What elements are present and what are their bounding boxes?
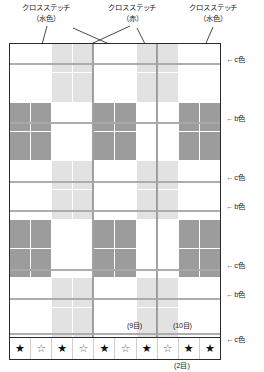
grid-cell	[137, 190, 158, 219]
grid-cell	[31, 220, 52, 249]
grid-cell	[94, 249, 115, 278]
star-hollow-icon: ☆	[31, 338, 52, 359]
guide-hline-c3	[10, 269, 220, 271]
grid-cell	[200, 73, 220, 102]
stitch-star-row: ★☆★☆★☆★☆★★	[9, 338, 221, 360]
grid-cell	[94, 73, 115, 102]
grid-cell	[10, 73, 31, 102]
annotation-top-mid-line2: （赤）	[108, 14, 156, 25]
grid-cell	[115, 249, 136, 278]
grid-cell	[52, 132, 73, 161]
grid-cell	[94, 220, 115, 249]
grid-cell	[179, 220, 200, 249]
annotation-top-right: クロスステッチ （水色）	[189, 3, 237, 24]
guide-hline-b2	[10, 210, 220, 212]
row-label-text: b色	[234, 290, 245, 299]
grid-row	[10, 132, 220, 161]
annotation-top-right-line1: クロスステッチ	[189, 3, 237, 12]
left-arrow-icon: ←	[226, 335, 233, 344]
grid-cell	[10, 278, 31, 307]
row-label-text: c色	[234, 335, 244, 344]
star-filled-icon: ★	[10, 338, 31, 359]
grid-cell	[158, 73, 179, 102]
grid-cell	[179, 190, 200, 219]
annotation-top-mid: クロスステッチ （赤）	[108, 3, 156, 24]
grid-cell	[158, 190, 179, 219]
grid-cell	[52, 73, 73, 102]
left-arrow-icon: ←	[226, 114, 233, 123]
row-label-c色: ←c色	[226, 333, 245, 344]
star-filled-icon: ★	[137, 338, 158, 359]
star-hollow-icon: ☆	[158, 338, 179, 359]
grid-cell	[94, 190, 115, 219]
grid-cell	[115, 44, 136, 73]
grid-cell	[200, 278, 220, 307]
grid-cell	[179, 44, 200, 73]
grid-cell	[10, 220, 31, 249]
grid-cell	[31, 103, 52, 132]
annotation-top-left-line2: （水色）	[22, 14, 70, 25]
grid-row	[10, 73, 220, 102]
guide-vline-1	[92, 44, 94, 337]
count-col10-label: (10目)	[173, 320, 192, 330]
grid-cell	[52, 249, 73, 278]
grid-cell	[200, 161, 220, 190]
grid-cell	[137, 132, 158, 161]
grid-cell	[200, 44, 220, 73]
row-label-c色: ←c色	[226, 259, 245, 270]
guide-vline-2	[156, 44, 158, 337]
grid-cell	[94, 161, 115, 190]
star-filled-icon: ★	[200, 338, 220, 359]
row-label-text: c色	[234, 173, 244, 182]
left-arrow-icon: ←	[226, 290, 233, 299]
grid-cell	[158, 220, 179, 249]
grid-cell	[10, 44, 31, 73]
grid-cell	[52, 161, 73, 190]
annotation-top-left: クロスステッチ （水色）	[22, 3, 70, 24]
grid-cell	[31, 44, 52, 73]
grid-cell	[200, 132, 220, 161]
annotation-top-right-line2: （水色）	[189, 14, 237, 25]
grid-cell	[115, 220, 136, 249]
pattern-diagram: クロスステッチ （水色） クロスステッチ （赤） クロスステッチ （水色）	[0, 0, 264, 372]
grid-cell	[137, 161, 158, 190]
grid-cell	[137, 73, 158, 102]
guide-hline-c2	[10, 181, 220, 183]
grid-cell	[94, 103, 115, 132]
grid-cell	[158, 44, 179, 73]
grid-cell	[200, 220, 220, 249]
left-arrow-icon: ←	[226, 173, 233, 182]
grid-cell	[179, 132, 200, 161]
grid-cell	[179, 103, 200, 132]
grid-cell	[52, 44, 73, 73]
grid-cell	[179, 73, 200, 102]
grid-cell	[10, 103, 31, 132]
star-filled-icon: ★	[179, 338, 200, 359]
grid-cell	[31, 161, 52, 190]
grid-cell	[200, 249, 220, 278]
row-label-b色: ←b色	[226, 112, 245, 123]
star-hollow-icon: ☆	[115, 338, 136, 359]
grid-cell	[137, 44, 158, 73]
grid-cell	[137, 278, 158, 307]
grid-cell	[31, 132, 52, 161]
grid-cell	[94, 44, 115, 73]
star-filled-icon: ★	[52, 338, 73, 359]
grid-cell	[158, 103, 179, 132]
grid	[10, 44, 220, 337]
row-label-text: b色	[234, 202, 245, 211]
grid-cell	[52, 190, 73, 219]
grid-row	[10, 103, 220, 132]
grid-cell	[115, 278, 136, 307]
annotation-top-mid-line1: クロスステッチ	[108, 3, 156, 12]
row-label-b色: ←b色	[226, 288, 245, 299]
guide-hline-c1	[10, 63, 220, 65]
grid-cell	[158, 132, 179, 161]
grid-cell	[137, 249, 158, 278]
grid-cell	[10, 132, 31, 161]
grid-cell	[31, 278, 52, 307]
left-arrow-icon: ←	[226, 55, 233, 64]
grid-cell	[94, 278, 115, 307]
plaid-chart: (9目) (10目)	[9, 43, 221, 338]
grid-cell	[137, 220, 158, 249]
